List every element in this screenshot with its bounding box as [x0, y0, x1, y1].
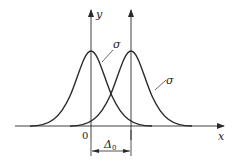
sigma-label-left: σ [113, 38, 121, 51]
offset-subscript: 0 [112, 144, 116, 152]
offset-label: Δ0 [103, 138, 116, 152]
y-axis-label: y [95, 8, 103, 21]
offset-arrowhead-left [92, 149, 99, 153]
sigma-label-right: σ [166, 74, 174, 87]
origin-label: 0 [82, 130, 88, 141]
gaussian-shift-diagram: y x 0 σ σ Δ0 [0, 0, 235, 163]
offset-arrowhead-right [123, 149, 130, 153]
sigma-leader-left [102, 50, 113, 62]
x-axis-label: x [218, 130, 225, 143]
sigma-leader-right [155, 80, 166, 90]
offset-symbol: Δ [103, 138, 112, 151]
